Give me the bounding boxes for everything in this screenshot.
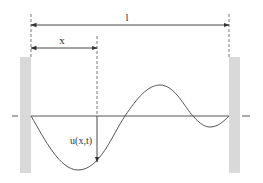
position-label: x: [59, 34, 65, 46]
left-wall: [20, 57, 31, 173]
string-curve: [31, 85, 229, 170]
displacement-label: u(x,t): [70, 135, 92, 147]
length-label: l: [125, 11, 128, 23]
string-vibration-diagram: l x u(x,t): [0, 0, 263, 183]
right-wall: [229, 57, 240, 173]
